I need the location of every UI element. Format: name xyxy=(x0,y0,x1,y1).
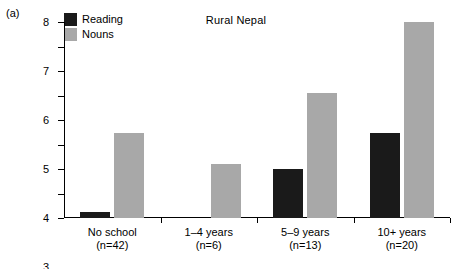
bar-reading-3 xyxy=(370,133,400,218)
y-tick-mark: 1 xyxy=(58,194,64,195)
y-tick-label: 4 xyxy=(43,213,49,224)
chart-figure: (a) Rural Nepal Reading Nouns 012345678 … xyxy=(0,0,472,269)
bar-nouns-2 xyxy=(307,93,337,218)
y-tick-mark: 4 xyxy=(58,120,64,121)
x-group-label-name: 1–4 years xyxy=(185,226,233,239)
x-group-label-count: (n=6) xyxy=(185,239,233,252)
y-tick-label: 6 xyxy=(43,115,49,126)
x-group-label-name: 5–9 years xyxy=(281,226,329,239)
y-tick-mark: 0 xyxy=(58,218,64,219)
y-tick-mark: 5 xyxy=(58,96,64,97)
x-tick-mark xyxy=(354,218,355,223)
y-tick-mark: 8 xyxy=(58,22,64,23)
bar-reading-0 xyxy=(80,212,110,218)
x-group-label-count: (n=13) xyxy=(281,239,329,252)
x-group-label: 10+ years(n=20) xyxy=(377,226,426,252)
x-group-label-count: (n=42) xyxy=(88,239,137,252)
plot-area: 012345678 xyxy=(64,22,450,218)
x-group-label: 1–4 years(n=6) xyxy=(185,226,233,252)
y-tick-label: 5 xyxy=(43,164,49,175)
y-tick-mark: 3 xyxy=(58,145,64,146)
bar-nouns-3 xyxy=(404,22,434,218)
bar-nouns-0 xyxy=(114,133,144,218)
x-tick-mark xyxy=(450,218,451,223)
y-tick-label: 7 xyxy=(43,66,49,77)
y-tick-mark: 7 xyxy=(58,47,64,48)
y-tick-mark: 6 xyxy=(58,71,64,72)
x-group-label-count: (n=20) xyxy=(377,239,426,252)
x-tick-mark xyxy=(257,218,258,223)
y-tick-label: 8 xyxy=(43,17,49,28)
x-group-label: No school(n=42) xyxy=(88,226,137,252)
bar-reading-2 xyxy=(273,169,303,218)
x-tick-mark xyxy=(161,218,162,223)
x-group-label-name: 10+ years xyxy=(377,226,426,239)
x-group-label: 5–9 years(n=13) xyxy=(281,226,329,252)
y-tick-mark: 2 xyxy=(58,169,64,170)
y-tick-label: 3 xyxy=(43,262,49,269)
bar-nouns-1 xyxy=(211,164,241,218)
x-group-label-name: No school xyxy=(88,226,137,239)
y-axis-line xyxy=(64,22,65,218)
